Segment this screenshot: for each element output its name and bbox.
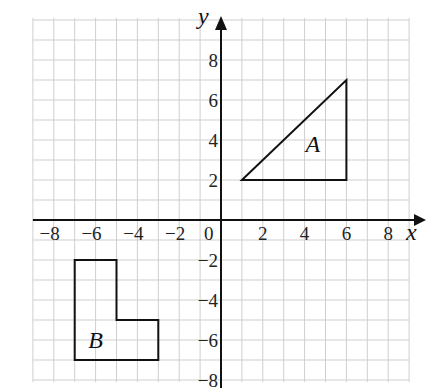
- y-tick-label: −8: [198, 370, 218, 388]
- x-tick-label: −2: [165, 223, 185, 244]
- y-tick-label: −2: [198, 250, 218, 271]
- y-tick-label: 4: [209, 130, 219, 151]
- y-tick-label: 2: [209, 170, 219, 191]
- shape-label-a: A: [304, 131, 321, 157]
- coordinate-grid-figure: x y 0 −8−6−4−224688642−2−4−6−8 AB: [0, 0, 426, 388]
- x-tick-label: −8: [40, 223, 60, 244]
- origin-label: 0: [204, 223, 214, 244]
- shape-a: [242, 80, 347, 180]
- y-axis-arrow-icon: [215, 16, 227, 30]
- y-axis-label: y: [196, 3, 209, 29]
- x-tick-label: −4: [123, 223, 144, 244]
- y-tick-label: −6: [198, 330, 218, 351]
- x-tick-label: 4: [300, 223, 310, 244]
- x-tick-label: 8: [383, 223, 393, 244]
- x-tick-label: −6: [81, 223, 101, 244]
- x-tick-label: 6: [342, 223, 352, 244]
- x-axis-label: x: [405, 219, 417, 245]
- y-tick-label: −4: [198, 290, 219, 311]
- x-tick-label: 2: [258, 223, 268, 244]
- y-tick-label: 8: [209, 50, 219, 71]
- shape-label-b: B: [88, 327, 103, 353]
- y-tick-label: 6: [209, 90, 219, 111]
